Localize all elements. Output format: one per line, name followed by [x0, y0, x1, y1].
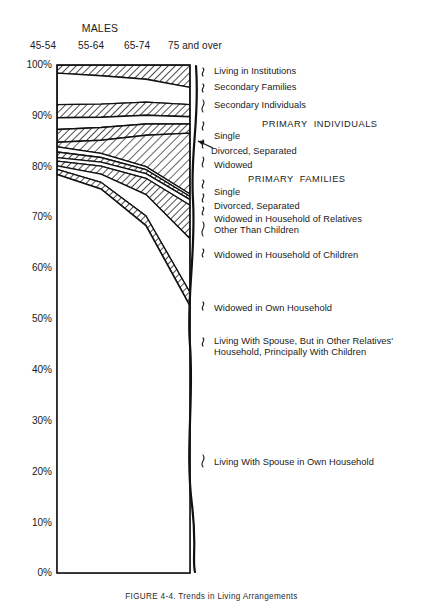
series-label-living-with-spouse-own-household: Living With Spouse in Own Household [214, 457, 374, 469]
series-label-living-in-institutions: Living in Institutions [214, 66, 296, 78]
series-label-widowed-hh-relatives-other-1: Widowed in Household of Relatives [214, 214, 362, 226]
series-label-pi-single: Single [214, 131, 240, 143]
group-label-primary-families: PRIMARY FAMILIES [248, 174, 346, 186]
series-label-widowed-hh-relatives-other-2: Other Than Children [214, 225, 299, 237]
series-label-widowed-own-household: Widowed in Own Household [214, 303, 332, 315]
stacked-bands [57, 65, 190, 573]
series-label-secondary-families: Secondary Families [214, 82, 297, 94]
label-connector-braces [202, 68, 204, 467]
figure-caption: FIGURE 4-4. Trends in Living Arrangement… [0, 592, 423, 601]
series-label-pi-widowed: Widowed [214, 160, 253, 172]
figure-chart: MALES 45-54 55-64 65-74 75 and over 100%… [0, 0, 423, 604]
series-label-living-with-spouse-other-rel-2: Household, Principally With Children [214, 347, 366, 359]
group-label-primary-individuals: PRIMARY INDIVIDUALS [262, 119, 378, 131]
series-label-pi-divorced-separated: Divorced, Separated [211, 146, 297, 158]
stacked-area-plot [0, 0, 423, 604]
series-label-secondary-individuals: Secondary Individuals [214, 100, 306, 112]
series-label-pf-divorced-separated: Divorced, Separated [214, 201, 300, 213]
series-label-pf-single: Single [214, 187, 240, 199]
series-label-living-with-spouse-other-rel-1: Living With Spouse, But in Other Relativ… [214, 336, 393, 348]
series-label-widowed-hh-children: Widowed in Household of Children [214, 250, 358, 262]
